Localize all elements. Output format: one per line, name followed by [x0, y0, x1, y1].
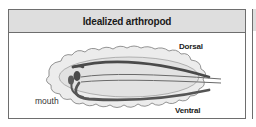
mouth-label: mouth: [35, 96, 59, 106]
idealized-arthropod-panel: Idealized arthropod Dorsal mouth Ventral: [8, 9, 246, 119]
panel-title: Idealized arthropod: [9, 10, 245, 33]
arthropod-diagram: [9, 33, 245, 119]
dorsal-line-front: [73, 66, 83, 67]
brain-blob: [74, 71, 81, 81]
adjacent-panel-header: [253, 9, 256, 31]
brain-blob-2: [68, 76, 74, 85]
dorsal-label: Dorsal: [179, 42, 203, 51]
ventral-label: Ventral: [175, 106, 200, 115]
